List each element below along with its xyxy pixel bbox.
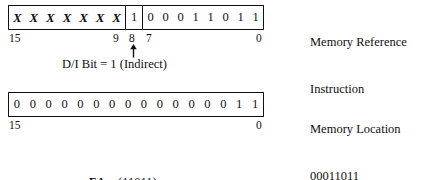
ea-symbol: EA: [88, 175, 105, 180]
opcode-operand-field: X X X X X X X: [9, 6, 125, 29]
bit-cell: 0: [173, 98, 179, 111]
bit-cell: 1: [252, 98, 258, 111]
bit-cell: 0: [46, 98, 52, 111]
bit-index-label-0: 0: [256, 33, 262, 45]
bit-cell: X: [112, 11, 121, 24]
bit-cell: X: [46, 11, 55, 24]
bit-cell: X: [30, 11, 39, 24]
bit-cell: 1: [131, 11, 137, 24]
up-arrow-icon: [128, 44, 139, 58]
ea-equation-line: EA = (11011): [88, 174, 157, 180]
di-bit-field: 1: [125, 6, 142, 29]
bit-cell: 0: [77, 98, 83, 111]
note-line-1: Memory Reference: [310, 35, 407, 51]
bit-index-label-9: 9: [113, 33, 119, 45]
bit-cell: X: [96, 11, 105, 24]
memory-reference-instruction-box: X X X X X X X 1 0 0 0 1 1 0 1 1: [8, 5, 264, 30]
bit-cell: 0: [188, 98, 194, 111]
note-line-1: Memory Location: [310, 122, 401, 138]
bit-cell: 0: [204, 98, 210, 111]
bit-cell: 0: [220, 98, 226, 111]
bit-index-label-0: 0: [256, 120, 262, 132]
word-field: 0 0 0 0 0 0 0 0 0 0 0 0 0 0 1 1: [9, 93, 263, 116]
memory-location-word-box: 0 0 0 0 0 0 0 0 0 0 0 0 0 0 1 1: [8, 92, 264, 117]
bit-cell: 0: [30, 98, 36, 111]
bit-cell: 0: [14, 98, 20, 111]
bit-cell: 1: [237, 11, 243, 24]
bit-cell: 1: [192, 11, 198, 24]
bit-cell: 0: [109, 98, 115, 111]
bit-cell: 0: [61, 98, 67, 111]
bit-cell: X: [63, 11, 72, 24]
bit-cell: 1: [207, 11, 213, 24]
bit-cell: 1: [236, 98, 242, 111]
effective-address-equations: EA = (11011) EA = 11: [88, 140, 157, 180]
note-line-2: 00011011: [310, 169, 401, 180]
bit-cell: 0: [93, 98, 99, 111]
bit-cell: X: [13, 11, 22, 24]
ea-expression: = (11011): [105, 175, 157, 180]
bit-index-label-15: 15: [9, 120, 21, 132]
bit-cell: 0: [162, 11, 168, 24]
memory-location-label: Memory Location 00011011: [310, 91, 401, 180]
bit-cell: 0: [222, 11, 228, 24]
bit-cell: 0: [177, 11, 183, 24]
di-bit-caption: D/I Bit = 1 (Indirect): [62, 58, 167, 72]
bit-index-label-7: 7: [146, 33, 152, 45]
address-field: 0 0 0 1 1 0 1 1: [142, 6, 263, 29]
indirect-addressing-figure: X X X X X X X 1 0 0 0 1 1 0 1 1 15 9 8 7…: [0, 0, 441, 180]
bit-cell: X: [79, 11, 88, 24]
bit-cell: 0: [141, 98, 147, 111]
bit-cell: 0: [147, 11, 153, 24]
bit-cell: 0: [125, 98, 131, 111]
bit-index-label-8: 8: [129, 33, 135, 45]
bit-cell: 0: [157, 98, 163, 111]
bit-index-label-15: 15: [9, 33, 21, 45]
bit-cell: 1: [252, 11, 258, 24]
